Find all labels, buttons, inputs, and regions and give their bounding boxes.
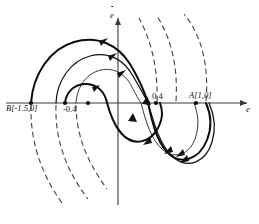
- dashed-arc-group-lower-left: [31, 105, 107, 203]
- label-equilibrium-A: A[1,0]: [189, 91, 211, 100]
- phase-plane-canvas: [0, 0, 259, 224]
- label-switch-positive: 0.4: [152, 92, 163, 101]
- vertical-axis-label: e: [110, 10, 114, 20]
- label-switch-negative: -0.4: [63, 105, 76, 114]
- phase-plane-figure: B[-1.5,0] -0.4 0.4 A[1,0] e e: [0, 0, 259, 224]
- horizontal-axis-label: e: [246, 104, 250, 114]
- point-plus-0-4: [154, 101, 158, 105]
- vertical-axis-arrow: [115, 18, 121, 25]
- dashed-lower-left-3: [76, 105, 107, 189]
- flow-arrow-second-top: [108, 53, 117, 61]
- point-A: [194, 101, 198, 105]
- label-equilibrium-B: B[-1.5,0]: [6, 104, 38, 113]
- dashed-arc-group-upper-right: [139, 14, 207, 101]
- point-inner-left: [86, 101, 90, 105]
- flow-arrow-outer-top: [99, 38, 108, 46]
- point-plus-0-4-left: [146, 101, 150, 105]
- outer-solid-spiral: [31, 40, 210, 160]
- overdot-icon: [111, 6, 113, 8]
- outer-solid-spiral-group: [31, 38, 210, 160]
- dashed-upper-right-3: [184, 14, 207, 101]
- dashed-upper-right-2: [157, 16, 176, 101]
- axes-group: [6, 18, 247, 205]
- vertical-axis-label-text: e: [110, 10, 114, 20]
- dashed-lower-left-2: [56, 105, 88, 199]
- dashed-lower-left-1: [31, 105, 62, 203]
- flow-arrow-third-mid: [128, 113, 137, 122]
